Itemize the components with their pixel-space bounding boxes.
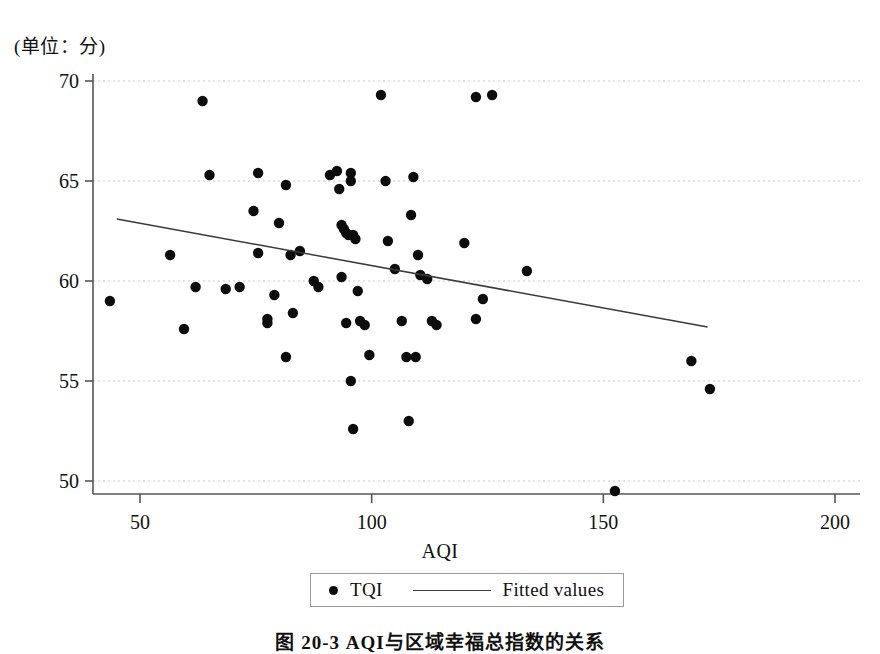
x-tick-label-100: 100 (357, 512, 387, 532)
scatter-point (281, 352, 291, 362)
scatter-point (459, 238, 469, 248)
scatter-point (522, 266, 532, 276)
legend-label-tqi: TQI (350, 579, 383, 601)
scatter-point (471, 92, 481, 102)
scatter-point (313, 282, 323, 292)
x-tick-label-200: 200 (820, 512, 850, 532)
scatter-point (288, 308, 298, 318)
scatter-point (234, 282, 244, 292)
scatter-point (478, 294, 488, 304)
scatter-point (248, 206, 258, 216)
scatter-plot-svg (0, 0, 880, 520)
scatter-point (686, 356, 696, 366)
legend: TQI Fitted values (310, 573, 624, 607)
scatter-point (364, 350, 374, 360)
x-tick-label-150: 150 (588, 512, 618, 532)
scatter-point (179, 324, 189, 334)
scatter-point (487, 90, 497, 100)
plot-area: 505560657050100150200 (0, 0, 880, 520)
figure-caption: 图 20-3 AQI与区域幸福总指数的关系 (0, 627, 880, 654)
scatter-point (262, 318, 272, 328)
scatter-point (190, 282, 200, 292)
scatter-point (281, 180, 291, 190)
scatter-point (204, 170, 214, 180)
scatter-point (253, 168, 263, 178)
scatter-point (397, 316, 407, 326)
scatter-point (332, 166, 342, 176)
scatter-point (410, 352, 420, 362)
scatter-point (353, 286, 363, 296)
scatter-point (274, 218, 284, 228)
scatter-point (413, 250, 423, 260)
scatter-point (348, 424, 358, 434)
scatter-point (346, 376, 356, 386)
y-tick-label-65: 65 (31, 171, 79, 191)
scatter-point (253, 248, 263, 258)
scatter-point (165, 250, 175, 260)
scatter-point (360, 320, 370, 330)
legend-entry-tqi: TQI (329, 579, 383, 601)
scatter-point (380, 176, 390, 186)
scatter-point (295, 246, 305, 256)
scatter-point (105, 296, 115, 306)
legend-dot-icon (329, 586, 338, 595)
scatter-point (376, 90, 386, 100)
scatter-point (350, 234, 360, 244)
scatter-point (406, 210, 416, 220)
fitted-values-line (117, 219, 708, 327)
scatter-point (610, 486, 620, 496)
scatter-point (221, 284, 231, 294)
x-axis-title: AQI (0, 540, 880, 563)
scatter-point (341, 318, 351, 328)
scatter-point (408, 172, 418, 182)
scatter-point (431, 320, 441, 330)
y-tick-label-60: 60 (31, 271, 79, 291)
legend-entry-fitted-values: Fitted values (413, 579, 605, 601)
y-tick-label-55: 55 (31, 371, 79, 391)
scatter-point (705, 384, 715, 394)
y-tick-label-50: 50 (31, 471, 79, 491)
scatter-point (334, 184, 344, 194)
scatter-point (269, 290, 279, 300)
scatter-point (383, 236, 393, 246)
scatter-point (404, 416, 414, 426)
scatter-point (197, 96, 207, 106)
scatter-point (336, 272, 346, 282)
scatter-point (401, 352, 411, 362)
legend-line-icon (413, 590, 491, 591)
y-tick-label-70: 70 (31, 71, 79, 91)
legend-label-fitted-values: Fitted values (503, 579, 605, 601)
x-tick-label-50: 50 (130, 512, 150, 532)
scatter-point (471, 314, 481, 324)
scatter-point (346, 176, 356, 186)
